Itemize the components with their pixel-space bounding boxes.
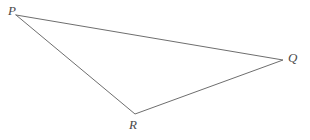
geometry-figure-canvas: P Q R <box>0 0 310 140</box>
vertex-label-p: P <box>8 4 16 17</box>
triangle-pqr-drawing <box>0 0 310 140</box>
figure-background <box>0 0 310 140</box>
vertex-label-q: Q <box>288 51 297 64</box>
vertex-label-r: R <box>129 118 137 131</box>
